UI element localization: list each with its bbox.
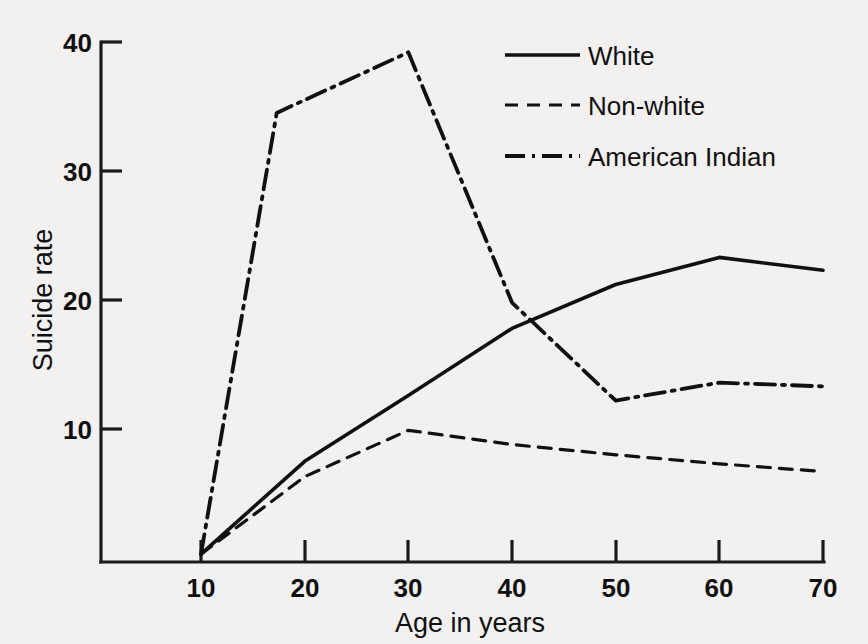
x-axis-title: Age in years bbox=[395, 608, 545, 638]
y-axis-title: Suicide rate bbox=[28, 229, 58, 372]
series-group bbox=[201, 52, 823, 554]
x-tick-label-20: 20 bbox=[291, 573, 320, 603]
legend: White Non-white American Indian bbox=[505, 41, 776, 172]
y-tick-label-40: 40 bbox=[63, 28, 92, 58]
x-tick-label-30: 30 bbox=[394, 573, 423, 603]
x-tick-label-70: 70 bbox=[809, 573, 838, 603]
series-line-american-indian bbox=[201, 52, 823, 554]
y-tick-label-10: 10 bbox=[63, 415, 92, 445]
legend-label-white: White bbox=[588, 41, 654, 71]
chart-figure: 40 30 20 10 10 20 30 40 50 60 70 Age in … bbox=[0, 0, 868, 644]
x-tick-label-60: 60 bbox=[705, 573, 734, 603]
x-tick-label-10: 10 bbox=[187, 573, 216, 603]
y-axis-ticks: 40 30 20 10 bbox=[63, 28, 122, 445]
x-tick-label-50: 50 bbox=[602, 573, 631, 603]
suicide-rate-line-chart: 40 30 20 10 10 20 30 40 50 60 70 Age in … bbox=[0, 0, 868, 644]
legend-label-american-indian: American Indian bbox=[588, 142, 776, 172]
x-axis-ticks: 10 20 30 40 50 60 70 bbox=[187, 540, 838, 603]
legend-label-non-white: Non-white bbox=[588, 91, 705, 121]
series-line-non-white bbox=[201, 430, 823, 554]
y-tick-label-30: 30 bbox=[63, 157, 92, 187]
y-tick-label-20: 20 bbox=[63, 286, 92, 316]
axes bbox=[101, 42, 824, 562]
x-tick-label-40: 40 bbox=[498, 573, 527, 603]
